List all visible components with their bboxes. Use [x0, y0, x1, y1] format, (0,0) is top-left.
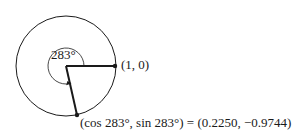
- terminal-side: [66, 66, 77, 115]
- unit-circle-diagram: 283° (1, 0) (cos 283°, sin 283°) = (0.22…: [0, 0, 304, 136]
- initial-point-label: (1, 0): [121, 58, 149, 71]
- initial-point-dot: [113, 64, 117, 68]
- angle-label: 283°: [51, 48, 76, 61]
- terminal-point-dot: [75, 113, 79, 117]
- terminal-point-label: (cos 283°, sin 283°) = (0.2250, −0.9744): [80, 116, 291, 129]
